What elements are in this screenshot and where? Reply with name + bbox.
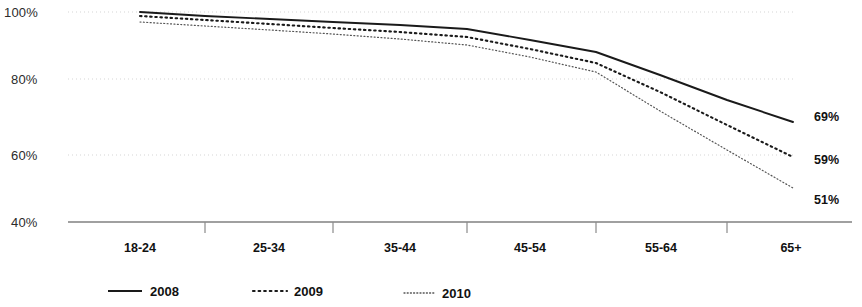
series-line-2009	[140, 16, 793, 157]
x-axis-label-25-34: 25-34	[229, 241, 309, 255]
series-line-2010	[140, 22, 793, 188]
x-axis-label-45-54: 45-54	[490, 241, 570, 255]
end-value-label-2010: 51%	[814, 193, 839, 207]
x-axis-label-35-44: 35-44	[360, 241, 440, 255]
x-axis-label-65-plus: 65+	[751, 241, 831, 255]
legend-label-2010[interactable]: 2010	[442, 286, 471, 301]
series-line-2008	[140, 12, 793, 122]
x-axis-label-18-24: 18-24	[100, 241, 180, 255]
line-chart: 100% 80% 60% 40% 18-24 2	[0, 0, 862, 307]
x-axis-ticks	[205, 222, 727, 233]
plot-area	[0, 0, 862, 307]
x-axis-label-55-64: 55-64	[621, 241, 701, 255]
legend-label-2008[interactable]: 2008	[150, 284, 179, 299]
end-value-label-2009: 59%	[814, 153, 839, 167]
legend-label-2009[interactable]: 2009	[294, 284, 323, 299]
end-value-label-2008: 69%	[814, 110, 839, 124]
